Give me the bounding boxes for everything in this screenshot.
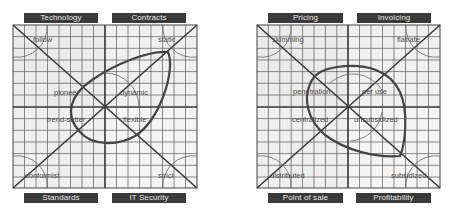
diagram-right: Pricing Invoicing (225, 0, 450, 211)
term-unsubsidized: unsubsidized (354, 115, 398, 124)
label-profitability: Profitability (356, 193, 431, 203)
term-flexible: flexible (123, 115, 146, 124)
term-dynamic: dynamic (120, 88, 148, 97)
label-it-security: IT Security (112, 193, 186, 203)
label-point-of-sale: Point of sale (268, 193, 343, 203)
diagram-left: Technology Contracts (0, 0, 225, 211)
term-subsidized: subsidized (391, 171, 426, 180)
diagram-right-graphic: skimming flatrate penetration per use ce… (225, 0, 450, 211)
term-conformist: conformist (25, 171, 61, 180)
term-skimming: skimming (272, 35, 304, 44)
term-trend-setter: trend-setter (47, 115, 86, 124)
term-pioneer: pioneer (54, 88, 80, 97)
label-standards: Standards (24, 193, 98, 203)
term-flatrate: flatrate (397, 35, 420, 44)
term-per-use: per use (362, 87, 387, 96)
term-distributed: distributed (270, 171, 305, 180)
diagram-left-graphic: follow static pioneer dynamic trend-sett… (0, 0, 225, 211)
term-follow: follow (33, 35, 53, 44)
term-centralized: centralized (292, 115, 328, 124)
term-strict: strict (158, 171, 175, 180)
term-penetration: penetration (293, 87, 331, 96)
term-static: static (158, 35, 176, 44)
